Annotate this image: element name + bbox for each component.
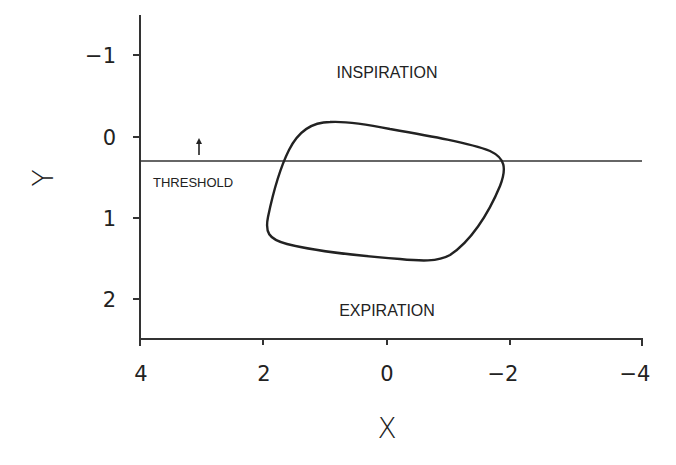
inspiration-label: INSPIRATION [336, 64, 437, 81]
chart-canvas: −1 0 1 2 4 2 0 −2 −4 X Y THRESHOLD INSPI… [0, 0, 676, 465]
arrow-up-icon [196, 138, 202, 155]
expiration-label: EXPIRATION [339, 302, 435, 319]
x-axis-title: X [377, 412, 396, 445]
y-tick-label: 1 [103, 207, 116, 231]
y-axis-title: Y [27, 169, 60, 186]
x-tick-label: 0 [380, 362, 393, 386]
y-tick-label: 0 [103, 126, 116, 150]
threshold-label: THRESHOLD [153, 175, 233, 190]
x-ticks [140, 339, 642, 346]
x-tick-label: −2 [488, 362, 519, 386]
y-tick-label: 2 [103, 288, 116, 312]
loop-curve [267, 122, 504, 261]
y-ticks [133, 55, 140, 299]
x-tick-label: −4 [620, 362, 651, 386]
y-tick-label: −1 [85, 44, 116, 68]
x-tick-label: 2 [257, 362, 270, 386]
x-tick-label: 4 [134, 362, 147, 386]
y-axis-title-group: Y [27, 169, 60, 186]
